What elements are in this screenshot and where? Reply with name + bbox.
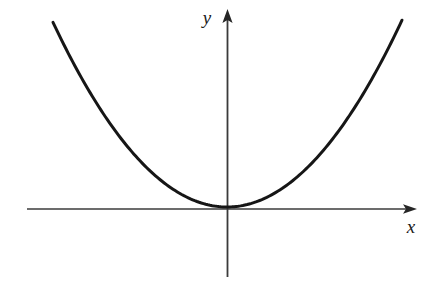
parabola-figure: y x (0, 0, 433, 293)
x-axis-label: x (406, 216, 416, 237)
figure-canvas: y x (0, 0, 433, 293)
y-axis-label: y (201, 7, 212, 28)
